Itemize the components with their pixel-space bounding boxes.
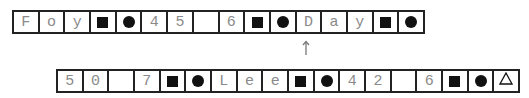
square-icon: [97, 17, 108, 28]
cell: 4: [340, 71, 366, 91]
cell: a: [322, 12, 348, 32]
circle-icon: [475, 75, 487, 87]
circle-icon: [405, 16, 417, 28]
cell: F: [14, 12, 40, 32]
cell: D: [297, 12, 323, 32]
cell: [399, 12, 423, 32]
square-icon: [252, 17, 263, 28]
square-icon: [167, 76, 178, 87]
cell: [374, 12, 400, 32]
cell: 0: [84, 71, 110, 91]
cell: [494, 71, 518, 91]
cell: 7: [135, 71, 161, 91]
circle-icon: [277, 16, 289, 28]
cell: 5: [168, 12, 194, 32]
cell-empty: [109, 71, 135, 91]
triangle-icon: [499, 72, 513, 90]
cell: y: [65, 12, 91, 32]
cell: e: [263, 71, 289, 91]
cell: 6: [417, 71, 443, 91]
cell-empty: [392, 71, 418, 91]
cell-empty: [194, 12, 220, 32]
top-row: F o y 4 5 6 D a y: [12, 10, 425, 34]
cell: [91, 12, 117, 32]
cell: [443, 71, 469, 91]
cell: 4: [142, 12, 168, 32]
cell: [186, 71, 212, 91]
cell: [117, 12, 143, 32]
square-icon: [295, 76, 306, 87]
cell: 5: [58, 71, 84, 91]
square-icon: [380, 17, 391, 28]
arrow-up-icon: [301, 40, 311, 56]
cell: e: [238, 71, 264, 91]
cell: y: [348, 12, 374, 32]
cell: [469, 71, 495, 91]
cell: [315, 71, 341, 91]
cell: [271, 12, 297, 32]
cell: [245, 12, 271, 32]
circle-icon: [123, 16, 135, 28]
square-icon: [449, 76, 460, 87]
cell: [289, 71, 315, 91]
cell: L: [212, 71, 238, 91]
bottom-row: 5 0 7 L e e 4 2 6: [56, 69, 520, 93]
circle-icon: [321, 75, 333, 87]
circle-icon: [192, 75, 204, 87]
cell: 2: [366, 71, 392, 91]
cell: o: [40, 12, 66, 32]
cell: 6: [220, 12, 246, 32]
cell: [161, 71, 187, 91]
